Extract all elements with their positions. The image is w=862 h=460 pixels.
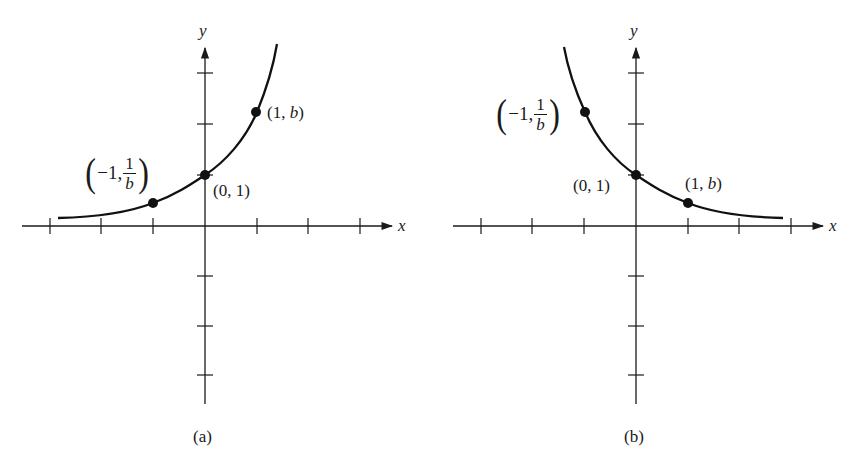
point-label-0: (0, 1) — [213, 182, 250, 199]
point-label-1: (1, b) — [267, 104, 304, 121]
x-axis-label: x — [398, 217, 406, 234]
point-0 — [200, 170, 210, 180]
point-label-1: (1, b) — [685, 175, 722, 192]
point-label-neg1: ( −1, 1 b ) — [495, 94, 561, 134]
panel-caption: (a) — [193, 427, 212, 447]
x-axis-label: x — [829, 217, 837, 234]
point-1 — [683, 198, 693, 208]
point-label-0: (0, 1) — [573, 177, 610, 194]
fraction: 1 b — [534, 96, 547, 133]
graph-panel-a: y x ( −1, 1 b ) (0, 1) (1, b) (a) — [0, 0, 431, 460]
panel-caption: (b) — [624, 427, 644, 447]
point-neg1 — [580, 107, 590, 117]
graph-a-canvas — [0, 0, 431, 460]
graph-b-canvas — [431, 0, 862, 460]
fraction: 1 b — [123, 155, 136, 192]
point-1 — [251, 107, 261, 117]
point-label-neg1: ( −1, 1 b ) — [84, 153, 150, 193]
y-axis-label: y — [630, 22, 638, 39]
point-0 — [631, 170, 641, 180]
x-axis — [453, 218, 823, 234]
x-axis — [22, 218, 392, 234]
y-axis-label: y — [199, 22, 207, 39]
point-neg1 — [148, 198, 158, 208]
graph-panel-b: y x ( −1, 1 b ) (0, 1) (1, b) (b) — [431, 0, 862, 460]
